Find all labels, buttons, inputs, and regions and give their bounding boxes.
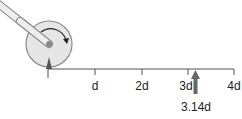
up-arrow-icon	[194, 78, 198, 94]
wheel-number-line-diagram: d 2d 3d 4d 3.14d	[0, 0, 242, 119]
tick-label-2d: 2d	[135, 79, 148, 93]
wheel	[20, 21, 72, 69]
tick-label-4d: 4d	[227, 79, 240, 93]
marker-label: 3.14d	[181, 100, 211, 114]
number-line: d 2d 3d 4d	[48, 69, 241, 93]
tick-label-d: d	[92, 79, 99, 93]
tick-label-3d: 3d	[179, 79, 192, 93]
axle	[46, 41, 52, 47]
